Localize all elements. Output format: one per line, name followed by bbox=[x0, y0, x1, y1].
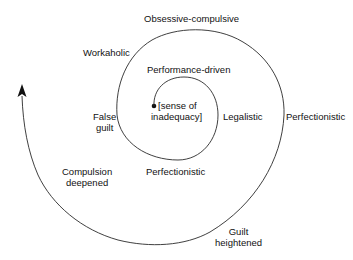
label-workaholic: Workaholic bbox=[83, 47, 130, 58]
label-guilt-line1: Guilt bbox=[215, 226, 262, 237]
label-guilt-heightened: Guilt heightened bbox=[215, 226, 262, 248]
label-false-guilt-line2: guilt bbox=[93, 122, 116, 133]
label-false-guilt: False guilt bbox=[93, 111, 116, 133]
label-center: [sense of inadequacy] bbox=[158, 100, 202, 122]
label-obsessive-compulsive: Obsessive-compulsive bbox=[144, 13, 239, 24]
label-performance-driven: Performance-driven bbox=[147, 64, 230, 75]
label-false-guilt-line1: False bbox=[93, 111, 116, 122]
label-compulsion-deepened: Compulsion deepened bbox=[62, 166, 112, 188]
label-perfectionistic-inner: Perfectionistic bbox=[146, 166, 205, 177]
label-perfectionistic-outer: Perfectionistic bbox=[286, 111, 345, 122]
label-center-line1: [sense of bbox=[158, 100, 202, 111]
label-compulsion-line2: deepened bbox=[62, 177, 112, 188]
spiral-line bbox=[22, 30, 284, 245]
label-center-line2: inadequacy] bbox=[151, 111, 202, 122]
arrowhead-icon bbox=[18, 84, 27, 97]
label-compulsion-line1: Compulsion bbox=[62, 166, 112, 177]
spiral-diagram: Obsessive-compulsive Workaholic Performa… bbox=[0, 0, 353, 260]
spiral-path-graphic bbox=[0, 0, 353, 260]
label-guilt-line2: heightened bbox=[215, 237, 262, 248]
label-legalistic: Legalistic bbox=[223, 111, 263, 122]
